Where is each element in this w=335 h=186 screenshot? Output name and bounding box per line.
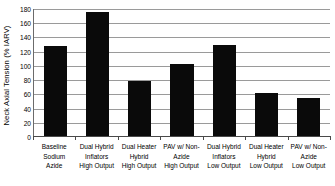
y-tick-label: 60 xyxy=(13,91,31,98)
y-tick-label: 180 xyxy=(13,6,31,13)
y-tick-label: 140 xyxy=(13,34,31,41)
y-axis-title-text: Neck Axial Tension (% IARV) xyxy=(3,25,12,125)
y-axis-title: Neck Axial Tension (% IARV) xyxy=(0,0,14,150)
plot-area xyxy=(33,9,330,137)
bar-chart: Neck Axial Tension (% IARV) 180160140120… xyxy=(0,0,335,186)
x-tick xyxy=(203,136,204,140)
x-category-label-line: Hybrid xyxy=(118,152,160,162)
y-tick-label: 100 xyxy=(13,62,31,69)
x-category-label-line: Dual Heater xyxy=(118,142,160,152)
bar xyxy=(297,98,320,136)
x-category-label: PAV w/ Non-AzideHigh Output xyxy=(160,142,202,184)
x-category-label-line: Low Output xyxy=(245,161,287,171)
y-tick-label: 20 xyxy=(13,119,31,126)
x-category-label: PAV w/ Non-AzideLow Output xyxy=(288,142,330,184)
x-category-label-line: Inflators xyxy=(203,152,245,162)
x-category-label-line: Low Output xyxy=(203,161,245,171)
x-category-label-line: High Output xyxy=(75,161,117,171)
bar-slot xyxy=(245,9,287,136)
x-category-label-line: Inflators xyxy=(75,152,117,162)
bars-layer xyxy=(34,9,330,136)
x-category-label-line: Azide xyxy=(33,161,75,171)
y-axis-tick-labels: 180160140120100806040200 xyxy=(13,9,31,137)
x-tick xyxy=(33,136,34,140)
x-category-label: Dual HeaterHybridLow Output xyxy=(245,142,287,184)
x-tick xyxy=(75,136,76,140)
x-category-label-line: Azide xyxy=(160,152,202,162)
x-category-label-line: PAV w/ Non- xyxy=(288,142,330,152)
x-tick xyxy=(288,136,289,140)
bar xyxy=(170,64,193,136)
bar-slot xyxy=(161,9,203,136)
x-axis-category-labels: BaselineSodiumAzideDual HybridInflatorsH… xyxy=(33,142,330,184)
y-tick-label: 40 xyxy=(13,105,31,112)
bar-slot xyxy=(203,9,245,136)
bar xyxy=(255,93,278,136)
x-category-label: Dual HybridInflatorsHigh Output xyxy=(75,142,117,184)
y-tick-label: 0 xyxy=(13,134,31,141)
bar-slot xyxy=(34,9,76,136)
x-category-label-line: Dual Hybrid xyxy=(203,142,245,152)
x-category-label-line: Dual Hybrid xyxy=(75,142,117,152)
x-category-label-line: Low Output xyxy=(288,161,330,171)
x-category-label-line: PAV w/ Non- xyxy=(160,142,202,152)
x-category-label: BaselineSodiumAzide xyxy=(33,142,75,184)
x-category-label-line: High Output xyxy=(118,161,160,171)
x-category-label-line: Baseline xyxy=(33,142,75,152)
x-category-label-line: Hybrid xyxy=(245,152,287,162)
x-tick xyxy=(118,136,119,140)
bar-slot xyxy=(76,9,118,136)
bar xyxy=(44,46,67,136)
bar-slot xyxy=(119,9,161,136)
x-category-label: Dual HeaterHybridHigh Output xyxy=(118,142,160,184)
bar xyxy=(86,12,109,136)
x-tick xyxy=(245,136,246,140)
x-tick xyxy=(330,136,331,140)
y-tick-label: 160 xyxy=(13,20,31,27)
x-category-label: Dual HybridInflatorsLow Output xyxy=(203,142,245,184)
bar xyxy=(213,45,236,136)
x-category-label-line: High Output xyxy=(160,161,202,171)
x-tick xyxy=(160,136,161,140)
x-axis-ticks xyxy=(33,136,330,140)
bar-slot xyxy=(288,9,330,136)
x-category-label-line: Sodium xyxy=(33,152,75,162)
y-tick-label: 80 xyxy=(13,77,31,84)
bar xyxy=(128,81,151,136)
x-category-label-line: Azide xyxy=(288,152,330,162)
y-tick-label: 120 xyxy=(13,48,31,55)
x-category-label-line: Dual Heater xyxy=(245,142,287,152)
